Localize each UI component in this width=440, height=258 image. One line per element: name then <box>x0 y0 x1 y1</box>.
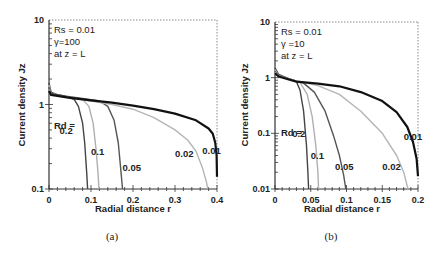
curve-label: 0.1 <box>311 150 325 161</box>
x-tick-label: 0.4 <box>211 195 224 205</box>
panel-caption: (a) <box>106 230 119 243</box>
curve-label: 0.05 <box>335 161 354 172</box>
curve-label: 0.1 <box>91 146 105 157</box>
legend-title: Rd = <box>54 120 75 131</box>
y-tick-label: 0.01 <box>252 184 270 194</box>
y-tick-label: 0.1 <box>31 184 44 194</box>
legend-title: Rd = <box>281 127 302 138</box>
annotation-gamma: γ =10 <box>281 38 305 49</box>
annotation-rs: Rs = 0.01 <box>281 26 322 37</box>
x-axis-title: Radial distance r <box>304 203 380 214</box>
plot-area: 0.010.111000.050.10.150.20.20.10.050.020… <box>252 17 424 205</box>
annotation-gamma: γ=100 <box>54 36 80 47</box>
x-axis-title: Radial distance r <box>95 203 171 214</box>
y-tick-label: 1 <box>265 73 270 83</box>
annotation-rs: Rs = 0.01 <box>54 24 95 35</box>
panel-caption: (b) <box>325 230 338 243</box>
y-tick-label: 10 <box>260 17 270 27</box>
chart-panel-a: 0.111000.10.20.30.40.20.10.050.020.01 Ra… <box>16 15 223 243</box>
curve-label: 0.05 <box>123 162 142 173</box>
y-tick-label: 10 <box>34 15 44 25</box>
annotation-z: at z = L <box>54 48 85 59</box>
x-tick-label: 0 <box>46 195 51 205</box>
curve-label: 0.02 <box>382 161 401 172</box>
y-axis-title: Current density Jz <box>16 63 27 146</box>
curve-label: 0.02 <box>175 148 194 159</box>
annotation-z: at z = L <box>281 50 312 61</box>
curve-label: 0.01 <box>404 131 423 142</box>
y-axis-title: Current density Jz <box>239 63 250 146</box>
y-tick-label: 0.1 <box>257 128 270 138</box>
chart-panel-b: 0.010.111000.050.10.150.20.20.10.050.020… <box>239 17 424 243</box>
figure: 0.111000.10.20.30.40.20.10.050.020.01 Ra… <box>0 0 440 258</box>
x-tick-label: 0 <box>272 195 277 205</box>
x-tick-label: 0.2 <box>412 195 425 205</box>
curve-label: 0.01 <box>202 145 221 156</box>
y-tick-label: 1 <box>39 100 44 110</box>
